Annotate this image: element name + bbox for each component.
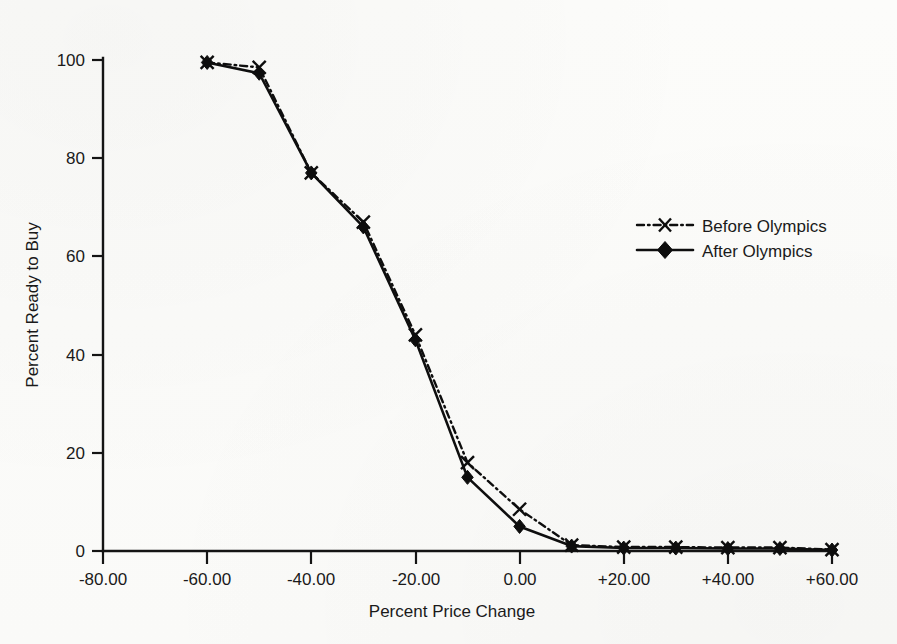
x-tick-labels: -80.00 -60.00 -40.00 -20.00 0.00 +20.00 … xyxy=(79,570,858,589)
legend-label-after-olympics: After Olympics xyxy=(702,242,813,261)
y-axis-title: Percent Ready to Buy xyxy=(23,222,42,388)
legend-label-before-olympics: Before Olympics xyxy=(702,217,827,236)
y-tick-marks xyxy=(92,60,103,551)
x-tick-label: 0.00 xyxy=(503,570,536,589)
y-tick-label: 20 xyxy=(66,444,85,463)
y-tick-label: 100 xyxy=(57,51,85,70)
x-axis-title: Percent Price Change xyxy=(369,602,535,621)
y-tick-label: 60 xyxy=(66,247,85,266)
series-before-olympics xyxy=(201,56,839,556)
legend-item-after-olympics[interactable]: After Olympics xyxy=(637,242,813,262)
x-marker xyxy=(513,503,526,516)
x-tick-label: -80.00 xyxy=(79,570,127,589)
y-tick-label: 0 xyxy=(76,542,85,561)
x-tick-label: -20.00 xyxy=(392,570,440,589)
chart-page: 100 80 60 40 20 0 -80.00 -60.00 -40.00 -… xyxy=(0,0,897,644)
series-line-after-olympics xyxy=(207,62,832,550)
legend-item-before-olympics[interactable]: Before Olympics xyxy=(637,217,827,236)
x-tick-label: +20.00 xyxy=(598,570,650,589)
series-after-olympics xyxy=(201,55,837,557)
y-tick-labels: 100 80 60 40 20 0 xyxy=(57,51,85,561)
y-tick-label: 40 xyxy=(66,346,85,365)
series-line-before-olympics xyxy=(207,62,832,549)
diamond-marker-icon xyxy=(658,242,673,259)
x-tick-label: -60.00 xyxy=(183,570,231,589)
x-tick-label: -40.00 xyxy=(287,570,335,589)
y-tick-label: 80 xyxy=(66,149,85,168)
x-tick-label: +60.00 xyxy=(806,570,858,589)
line-chart: 100 80 60 40 20 0 -80.00 -60.00 -40.00 -… xyxy=(0,0,897,644)
legend: Before Olympics After Olympics xyxy=(637,217,827,261)
x-tick-label: +40.00 xyxy=(702,570,754,589)
